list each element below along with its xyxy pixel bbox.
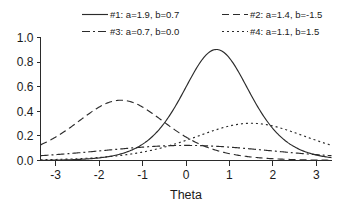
x-tick-label: 0 — [183, 168, 190, 182]
y-tick-label: 0.0 — [17, 154, 34, 168]
y-tick-label: 0.6 — [17, 80, 34, 94]
x-axis-title: Theta — [170, 188, 202, 202]
legend-label: #2: a=1.4, b=-1.5 — [250, 9, 322, 20]
x-tick-label: -1 — [137, 168, 148, 182]
legend-label: #4: a=1.1, b=1.5 — [250, 26, 319, 37]
x-tick-label: 1 — [226, 168, 233, 182]
x-tick-label: -3 — [50, 168, 61, 182]
y-tick-label: 0.8 — [17, 55, 34, 69]
chart-figure: #1: a=1.9, b=0.7#2: a=1.4, b=-1.5#3: a=0… — [0, 0, 342, 205]
y-tick-label: 0.4 — [17, 105, 34, 119]
y-tick-label: 0.2 — [17, 129, 34, 143]
legend-label: #1: a=1.9, b=0.7 — [110, 9, 179, 20]
y-tick-label: 1.0 — [17, 31, 34, 45]
information-function-chart: #1: a=1.9, b=0.7#2: a=1.4, b=-1.5#3: a=0… — [0, 0, 342, 205]
x-tick-label: -2 — [94, 168, 105, 182]
legend-label: #3: a=0.7, b=0.0 — [110, 26, 179, 37]
x-tick-label: 3 — [313, 168, 320, 182]
x-tick-label: 2 — [270, 168, 277, 182]
